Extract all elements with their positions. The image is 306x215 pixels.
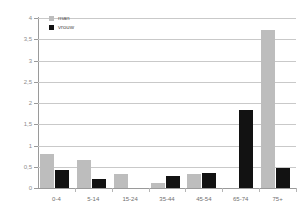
y-tick-label: 4 — [4, 15, 32, 21]
legend-label-vrouw: vrouw — [58, 24, 74, 31]
bar-group — [38, 18, 75, 188]
category-separator — [222, 188, 223, 192]
y-tick-label: 2,5 — [4, 79, 32, 85]
bar-group — [112, 18, 149, 188]
bar-vrouw-35-44 — [166, 176, 180, 188]
y-tick-label: 1,5 — [4, 121, 32, 127]
category-separator — [75, 188, 76, 192]
y-tick-label: 2 — [4, 100, 32, 106]
bar-vrouw-0-4 — [55, 170, 69, 188]
bar-man-75+ — [261, 30, 275, 188]
x-tick-label: 35-44 — [149, 196, 186, 203]
category-separator — [185, 188, 186, 192]
x-tick-label: 5-14 — [75, 196, 112, 203]
x-tick-label: 15-24 — [112, 196, 149, 203]
bar-group — [185, 18, 222, 188]
legend-label-man: man — [58, 15, 70, 22]
legend-item-man: man — [49, 14, 74, 23]
x-axis-line — [38, 188, 296, 189]
bar-group — [222, 18, 259, 188]
legend: man vrouw — [49, 14, 74, 32]
man-swatch-icon — [49, 16, 54, 21]
y-tick-label: 0 — [4, 185, 32, 191]
y-tick-label: 1 — [4, 143, 32, 149]
bar-group — [259, 18, 296, 188]
x-tick-label: 0-4 — [38, 196, 75, 203]
category-separator — [259, 188, 260, 192]
bar-man-45-54 — [187, 174, 201, 188]
y-tick-label: 3 — [4, 58, 32, 64]
bar-man-15-24 — [114, 174, 128, 188]
y-tick-label: 3,5 — [4, 36, 32, 42]
category-separator — [149, 188, 150, 192]
category-separator — [296, 188, 297, 192]
bars-layer — [38, 18, 296, 188]
bar-vrouw-5-14 — [92, 179, 106, 188]
bar-chart: 00,511,522,533,54 0-45-1415-2435-4445-54… — [0, 0, 306, 215]
bar-man-0-4 — [40, 154, 54, 188]
y-tick-label: 0,5 — [4, 164, 32, 170]
legend-item-vrouw: vrouw — [49, 23, 74, 32]
bar-group — [149, 18, 186, 188]
bar-vrouw-65-74 — [239, 110, 253, 188]
y-tick-mark — [34, 188, 38, 189]
bar-group — [75, 18, 112, 188]
bar-man-35-44 — [151, 183, 165, 188]
bar-vrouw-75+ — [276, 168, 290, 188]
bar-vrouw-45-54 — [202, 173, 216, 188]
x-tick-label: 45-54 — [185, 196, 222, 203]
vrouw-swatch-icon — [49, 25, 54, 30]
x-tick-label: 75+ — [259, 196, 296, 203]
x-tick-label: 65-74 — [222, 196, 259, 203]
category-separator — [112, 188, 113, 192]
bar-man-5-14 — [77, 160, 91, 188]
